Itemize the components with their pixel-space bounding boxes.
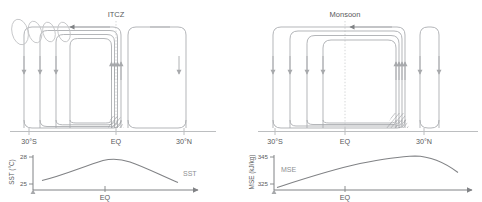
sst-eq-label: EQ [100, 193, 111, 202]
panel-title-monsoon: Monsoon [330, 10, 361, 19]
subplot-mse: 345 325 MSE (kJ/kg) EQ MSE [248, 153, 472, 202]
mse-y-axis-label: MSE (kJ/kg) [248, 155, 256, 190]
eddy-spiral [26, 20, 44, 44]
mse-curve [277, 156, 458, 188]
panel-title-itcz: ITCZ [108, 10, 125, 19]
circulation-cell-north [128, 27, 186, 128]
mse-eq-label: EQ [340, 193, 351, 202]
lat-tick-30n-monsoon: 30°N [416, 137, 432, 146]
mse-y-min-label: 325 [258, 180, 269, 187]
sst-y-min-label: 25 [20, 180, 27, 187]
eddy-spirals-itcz [9, 17, 72, 46]
circulation-cells-monsoon [273, 27, 439, 128]
convection-hatching-monsoon [386, 113, 409, 128]
lat-tick-30s-itcz: 30°S [21, 137, 37, 146]
figure-root: ITCZ [0, 0, 482, 202]
subplot-sst: 28 25 SST (°C) EQ SST [8, 153, 198, 202]
circulation-cell [40, 31, 118, 129]
lat-tick-eq-itcz: EQ [111, 137, 122, 146]
figure-svg: ITCZ [0, 0, 482, 202]
eddy-spiral [9, 17, 31, 46]
sst-y-max-label: 28 [20, 153, 27, 160]
circulation-cells-itcz [24, 27, 186, 128]
convection-hatching-itcz [108, 116, 124, 128]
panel-itcz: ITCZ [9, 10, 216, 146]
descending-arrows-monsoon [273, 56, 439, 74]
panel-monsoon: Monsoon [258, 10, 478, 146]
cell-bottom-arcs-itcz [24, 120, 186, 128]
sst-curve-label: SST [183, 170, 197, 177]
mse-y-max-label: 345 [258, 153, 269, 160]
lat-tick-30n-itcz: 30°N [176, 137, 192, 146]
eddy-spiral [56, 21, 72, 43]
mse-curve-label: MSE [281, 166, 297, 173]
sst-y-axis-label: SST (°C) [8, 159, 16, 185]
cell-bottom-arcs-monsoon [273, 120, 439, 128]
eddy-spiral [41, 21, 57, 43]
descending-arrows-itcz [24, 56, 179, 74]
ascending-arrows-itcz [112, 62, 122, 80]
sst-curve [42, 159, 178, 182]
circulation-cell [56, 35, 115, 129]
lat-tick-eq-monsoon: EQ [340, 137, 351, 146]
circulation-cell [70, 39, 112, 129]
lat-tick-30s-monsoon: 30°S [267, 137, 283, 146]
ascending-arrows-monsoon [396, 62, 405, 80]
